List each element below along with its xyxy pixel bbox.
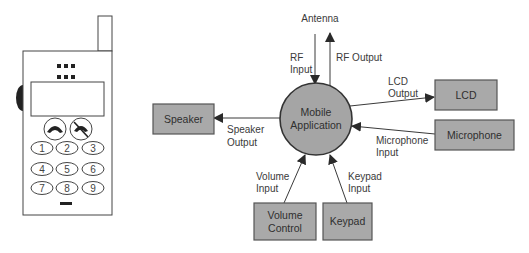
speaker-entity: Speaker [153,104,214,134]
keypad-entity: Keypad [323,203,372,240]
lcd-output-label-2: Output [388,88,418,99]
key-9: 9 [82,182,104,195]
svg-text:8: 8 [64,183,70,194]
process-label-line1: Mobile [301,106,332,118]
volume-input-label-1: Volume [256,171,290,182]
svg-text:Speaker: Speaker [164,113,204,125]
microphone-input-arrow [352,126,435,134]
key-2: 2 [56,142,78,155]
speaker-output-label-1: Speaker [227,124,265,135]
key-3: 3 [82,142,104,155]
keypad-input-label-1: Keypad [348,171,382,182]
lcd-entity: LCD [435,80,497,110]
key-4: 4 [31,163,53,176]
svg-text:4: 4 [39,164,45,175]
svg-text:5: 5 [64,164,70,175]
svg-text:Microphone: Microphone [447,129,502,141]
key-5: 5 [56,163,78,176]
microphone-input-label-2: Input [376,147,398,158]
phone-side-button [16,85,23,111]
process-label-line2: Application [290,119,342,131]
phone-keypad: 1 2 3 4 5 6 7 8 9 [31,142,104,195]
lcd-output-label-1: LCD [388,76,408,87]
rf-input-label-1: RF [290,52,303,63]
svg-text:Keypad: Keypad [330,215,366,227]
phone-antenna [98,16,112,51]
svg-text:6: 6 [90,164,96,175]
key-8: 8 [56,182,78,195]
keypad-input-arrow [330,155,347,203]
svg-text:2: 2 [64,143,70,154]
volume-control-entity: Volume Control [254,203,316,240]
key-1: 1 [31,142,53,155]
key-7: 7 [31,182,53,195]
rf-output-label: RF Output [336,52,382,63]
rf-input-label-2: Input [290,64,312,75]
keypad-input-label-2: Input [348,183,370,194]
mobile-application-process: Mobile Application [280,83,352,155]
microphone-input-label-1: Microphone [376,135,429,146]
phone-hangup-icon [70,118,92,140]
antenna-label: Antenna [301,13,339,24]
svg-text:Control: Control [268,222,302,234]
svg-text:1: 1 [39,143,45,154]
svg-text:Volume: Volume [267,209,302,221]
microphone-entity: Microphone [435,120,514,150]
phone-microphone-slot [60,202,72,205]
phone-answer-icon [44,118,66,140]
volume-input-label-2: Input [256,183,278,194]
speaker-output-label-2: Output [227,137,257,148]
svg-text:9: 9 [90,183,96,194]
phone-screen [31,82,104,116]
svg-text:7: 7 [39,183,45,194]
context-diagram: 1 2 3 4 5 6 7 8 9 Mobile Application Spe… [0,0,529,253]
key-6: 6 [82,163,104,176]
svg-text:3: 3 [90,143,96,154]
svg-text:LCD: LCD [455,89,476,101]
mobile-phone-illustration: 1 2 3 4 5 6 7 8 9 [16,16,112,215]
